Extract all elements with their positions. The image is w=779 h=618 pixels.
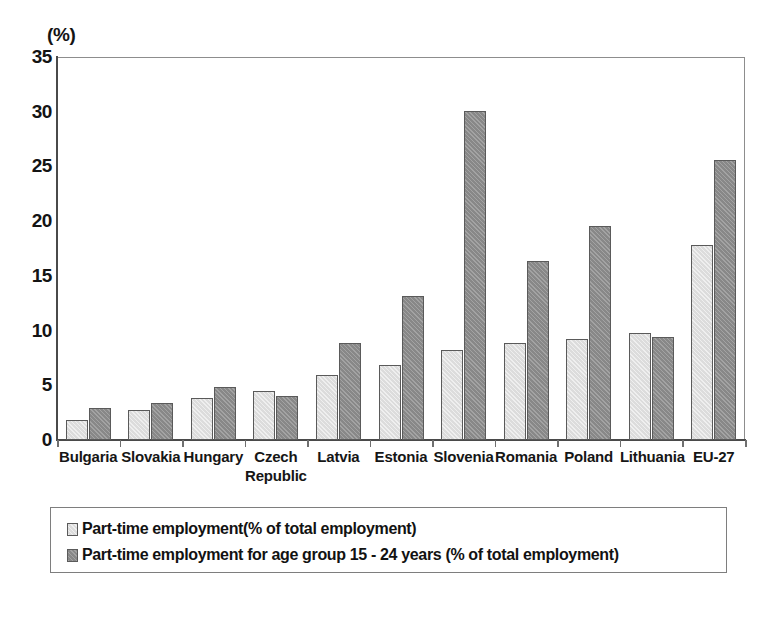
bar[interactable] xyxy=(402,296,424,440)
x-axis-label: EU-27 xyxy=(682,447,745,466)
bar[interactable] xyxy=(691,245,713,440)
legend-swatch-series-0 xyxy=(67,523,78,536)
bar[interactable] xyxy=(128,410,150,440)
x-axis-tick xyxy=(120,440,122,447)
x-axis-tick xyxy=(182,440,184,447)
y-axis-tick-label: 0 xyxy=(6,429,52,451)
bar[interactable] xyxy=(527,261,549,440)
y-axis-tick-label: 20 xyxy=(6,210,52,232)
x-axis-tick xyxy=(307,440,309,447)
bar[interactable] xyxy=(714,160,736,440)
x-axis-label: Slovakia xyxy=(120,447,183,466)
x-axis-label: Lithuania xyxy=(620,447,683,466)
bar-group xyxy=(316,57,361,440)
x-axis-tick xyxy=(745,440,747,447)
bar-group xyxy=(66,57,111,440)
x-axis-label: Bulgaria xyxy=(57,447,120,466)
bar[interactable] xyxy=(191,398,213,440)
y-axis-tick-labels: 35302520151050 xyxy=(0,0,52,618)
legend-label-series-0: Part-time employment(% of total employme… xyxy=(82,520,416,538)
bar-group xyxy=(379,57,424,440)
bar[interactable] xyxy=(214,387,236,440)
y-axis-tick-label: 25 xyxy=(6,155,52,177)
bar[interactable] xyxy=(629,333,651,440)
bar-group xyxy=(441,57,486,440)
x-axis-tick xyxy=(432,440,434,447)
x-axis-tick xyxy=(495,440,497,447)
y-axis-tick-label: 5 xyxy=(6,374,52,396)
x-axis-label: Latvia xyxy=(307,447,370,466)
legend-swatch-series-1 xyxy=(67,549,78,562)
bar[interactable] xyxy=(379,365,401,441)
bar-group xyxy=(629,57,674,440)
x-axis-category-labels: BulgariaSlovakiaHungaryCzech RepublicLat… xyxy=(57,447,745,497)
bar[interactable] xyxy=(276,396,298,440)
x-axis-tick xyxy=(370,440,372,447)
bar-group xyxy=(128,57,173,440)
y-axis-tick-label: 30 xyxy=(6,101,52,123)
bar[interactable] xyxy=(151,403,173,440)
bar[interactable] xyxy=(504,343,526,440)
bar[interactable] xyxy=(339,343,361,440)
x-axis-tick xyxy=(682,440,684,447)
y-axis-tick-label: 35 xyxy=(6,46,52,68)
bars-layer xyxy=(57,57,745,440)
bar[interactable] xyxy=(253,391,275,440)
chart-legend: Part-time employment(% of total employme… xyxy=(50,507,727,573)
x-axis-ticks xyxy=(57,440,745,447)
chart-figure: (%) 35302520151050 BulgariaSlovakiaHunga… xyxy=(0,0,779,618)
bar[interactable] xyxy=(464,111,486,440)
bar[interactable] xyxy=(652,337,674,440)
legend-entry-1[interactable]: Part-time employment for age group 15 - … xyxy=(67,546,619,564)
x-axis-label: Estonia xyxy=(370,447,433,466)
bar-group xyxy=(253,57,298,440)
bar[interactable] xyxy=(441,350,463,440)
x-axis-tick xyxy=(57,440,59,447)
bar[interactable] xyxy=(316,375,338,440)
bar[interactable] xyxy=(89,408,111,440)
bar-group xyxy=(191,57,236,440)
legend-label-series-1: Part-time employment for age group 15 - … xyxy=(82,546,619,564)
y-axis-tick-label: 15 xyxy=(6,265,52,287)
bar-group xyxy=(504,57,549,440)
bar[interactable] xyxy=(66,420,88,440)
x-axis-tick xyxy=(557,440,559,447)
bar[interactable] xyxy=(589,226,611,440)
x-axis-label: Romania xyxy=(495,447,558,466)
x-axis-tick xyxy=(245,440,247,447)
x-axis-label: Poland xyxy=(557,447,620,466)
x-axis-tick xyxy=(620,440,622,447)
x-axis-label: Slovenia xyxy=(432,447,495,466)
bar-group xyxy=(566,57,611,440)
legend-entry-0[interactable]: Part-time employment(% of total employme… xyxy=(67,520,416,538)
bar-group xyxy=(691,57,736,440)
y-axis-tick-label: 10 xyxy=(6,320,52,342)
x-axis-label: Hungary xyxy=(182,447,245,466)
bar[interactable] xyxy=(566,339,588,440)
x-axis-label: Czech Republic xyxy=(245,447,308,485)
